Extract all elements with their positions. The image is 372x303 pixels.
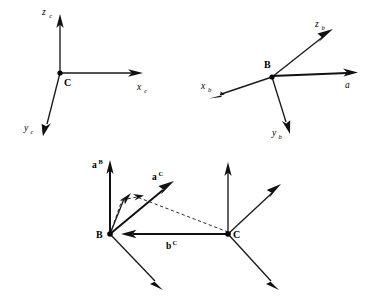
y-c-label: y (23, 123, 29, 133)
z-c-label-subscript: c (49, 12, 52, 19)
vector-a-label: a (345, 80, 350, 90)
panel-frame-b: z b x b y b B a (200, 19, 358, 140)
vector-a-b-label-superscript: B (99, 158, 104, 165)
z-c-label: z (41, 7, 46, 17)
origin-dot-b-bottom (107, 231, 113, 237)
panel-transform: a B a C b C B C (92, 158, 281, 291)
z-b-label-subscript: b (322, 24, 326, 31)
y-c-axis-line (47, 73, 60, 124)
y-c-arrowhead-fill (42, 123, 51, 136)
panel-frame-c: z c x c y c C (23, 7, 147, 136)
origin-dot-c (57, 70, 62, 75)
figure-root: z c x c y c C z b (0, 0, 372, 303)
origin-dot-b-top (269, 74, 274, 79)
diagram-canvas: z c x c y c C z b (0, 0, 372, 303)
vector-a-c-label: a (152, 172, 157, 182)
y-b-axis-line (272, 77, 286, 122)
vector-b-c-label: b (166, 241, 171, 251)
origin-label-b-top: B (264, 59, 271, 70)
z-b-label: z (314, 19, 319, 29)
y-b-label-subscript: b (279, 133, 283, 140)
c-frame-axis-diag-line (228, 193, 272, 234)
origin-label-b-bottom: B (96, 229, 103, 240)
x-c-label-subscript: c (144, 87, 147, 94)
c-frame-axis-down-line (228, 234, 271, 281)
c-frame-axis-down-arrowhead (266, 278, 279, 290)
origin-label-c-bottom: C (233, 229, 240, 240)
origin-dot-c-bottom (225, 231, 231, 237)
x-b-label-subscript: b (208, 86, 212, 93)
y-b-label: y (271, 128, 277, 138)
b-frame-axis-down-arrowhead (150, 278, 163, 290)
origin-label-c-top: C (64, 77, 71, 88)
y-c-label-subscript: c (31, 128, 34, 135)
dashed-c-to-a-c (137, 197, 228, 232)
x-c-label: x (136, 82, 142, 92)
vector-a-line (272, 73, 347, 76)
vector-b-c-label-superscript: C (172, 239, 177, 246)
vector-a-b-label: a (92, 160, 97, 170)
vector-a-c-label-superscript: C (159, 170, 164, 177)
x-b-label: x (200, 81, 206, 91)
y-b-arrowhead (282, 120, 290, 134)
z-b-axis-line (272, 38, 322, 78)
b-frame-axis-down-line (110, 234, 155, 281)
x-b-axis-line (220, 77, 272, 95)
